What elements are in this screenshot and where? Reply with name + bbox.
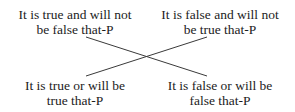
node-bottom-right-line2: false that-P: [145, 93, 295, 108]
node-top-left: It is true and will not be false that-P: [0, 7, 150, 37]
node-top-right: It is false and will not be true that-P: [145, 7, 295, 37]
node-bottom-left: It is true or will be true that-P: [0, 78, 150, 108]
node-bottom-right: It is false or will be false that-P: [145, 78, 295, 108]
node-bottom-right-line1: It is false or will be: [145, 78, 295, 93]
node-top-right-line2: be true that-P: [145, 22, 295, 37]
node-bottom-left-line2: true that-P: [0, 93, 150, 108]
node-top-left-line2: be false that-P: [0, 22, 150, 37]
node-bottom-left-line1: It is true or will be: [0, 78, 150, 93]
node-top-right-line1: It is false and will not: [145, 7, 295, 22]
node-top-left-line1: It is true and will not: [0, 7, 150, 22]
